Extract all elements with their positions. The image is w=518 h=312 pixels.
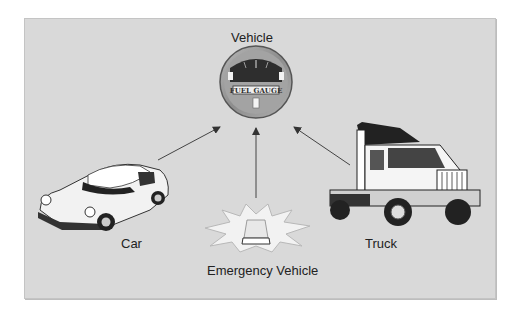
emergency-light-icon xyxy=(205,204,310,252)
svg-text:FUEL GAUGE: FUEL GAUGE xyxy=(230,86,283,95)
truck-label: Truck xyxy=(365,236,397,251)
car-icon xyxy=(38,164,168,231)
car-label: Car xyxy=(121,236,142,251)
vehicle-label: Vehicle xyxy=(231,30,273,45)
truck-icon xyxy=(330,122,480,226)
fuel-gauge-icon: FUEL GAUGE xyxy=(220,46,292,118)
arrow-car-to-vehicle xyxy=(158,127,220,160)
arrow-truck-to-vehicle xyxy=(294,127,350,165)
emergency-vehicle-label: Emergency Vehicle xyxy=(207,263,318,278)
